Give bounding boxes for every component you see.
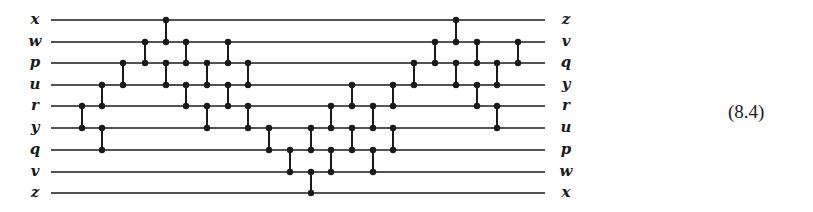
comparator	[453, 60, 459, 88]
comparator	[204, 60, 210, 88]
comparator-node	[79, 125, 85, 131]
output-label-u: u	[559, 120, 573, 135]
comparator-node	[163, 39, 169, 45]
comparator	[266, 125, 272, 153]
comparator	[163, 60, 169, 88]
comparator	[79, 103, 85, 131]
output-label-p: p	[559, 142, 573, 157]
comparator-node	[99, 103, 105, 109]
comparator	[328, 103, 334, 131]
comparator-node	[225, 82, 231, 88]
comparator-node	[163, 17, 169, 23]
comparator-node	[494, 103, 500, 109]
comparator-node	[390, 125, 396, 131]
comparator-node	[390, 82, 396, 88]
input-label-p: p	[28, 55, 42, 70]
comparator	[183, 82, 189, 109]
output-label-x: x	[559, 185, 573, 200]
comparator-node	[494, 60, 500, 66]
comparator-node	[99, 82, 105, 88]
comparator-node	[79, 103, 85, 109]
input-label-v: v	[28, 164, 42, 179]
comparator-node	[494, 125, 500, 131]
comparator-node	[225, 39, 231, 45]
comparator-node	[474, 103, 480, 109]
output-label-r: r	[559, 98, 573, 113]
comparator-node	[183, 103, 189, 109]
comparator	[494, 60, 500, 88]
comparator-node	[328, 169, 334, 175]
comparator-node	[349, 125, 355, 131]
input-label-w: w	[28, 34, 42, 49]
comparator	[225, 82, 231, 109]
input-label-x: x	[28, 12, 42, 27]
comparator-node	[245, 82, 251, 88]
comparator-node	[308, 125, 314, 131]
comparator-node	[204, 125, 210, 131]
comparator-node	[411, 60, 417, 66]
comparator	[308, 125, 314, 153]
input-label-z: z	[28, 185, 42, 200]
comparator-node	[515, 60, 521, 66]
output-label-y: y	[559, 77, 573, 92]
output-label-q: q	[559, 55, 573, 70]
comparator-node	[308, 190, 314, 196]
input-label-u: u	[28, 77, 42, 92]
comparator-node	[225, 60, 231, 66]
comparator-node	[474, 60, 480, 66]
comparator-node	[494, 82, 500, 88]
comparator	[494, 103, 500, 131]
comparator	[390, 125, 396, 153]
comparator-node	[120, 60, 126, 66]
comparator-node	[474, 39, 480, 45]
comparator-node	[183, 82, 189, 88]
sorting-network-diagram: xwpuryqvz zvqyrupwx (8.4)	[0, 0, 813, 212]
comparator-node	[204, 60, 210, 66]
equation-number: (8.4)	[728, 101, 764, 123]
comparator-node	[142, 39, 148, 45]
comparator-node	[308, 169, 314, 175]
comparator-node	[370, 147, 376, 153]
comparator	[142, 39, 148, 66]
comparator-node	[432, 60, 438, 66]
comparator-node	[245, 60, 251, 66]
output-label-z: z	[559, 12, 573, 27]
input-label-y: y	[28, 120, 42, 135]
comparator-node	[349, 82, 355, 88]
comparator	[99, 82, 105, 109]
comparator	[474, 82, 480, 109]
comparator-node	[515, 39, 521, 45]
comparator	[163, 17, 169, 45]
comparator-node	[328, 103, 334, 109]
comparator-node	[245, 103, 251, 109]
comparator	[515, 39, 521, 66]
comparator-node	[349, 147, 355, 153]
comparator-node	[99, 125, 105, 131]
comparator	[474, 39, 480, 66]
comparator	[411, 60, 417, 88]
comparator-node	[411, 82, 417, 88]
comparator-node	[266, 125, 272, 131]
comparator-node	[225, 103, 231, 109]
comparator-node	[120, 82, 126, 88]
comparator	[225, 39, 231, 66]
comparator-node	[245, 125, 251, 131]
comparator-node	[287, 169, 293, 175]
comparator-node	[390, 147, 396, 153]
comparator-node	[99, 147, 105, 153]
comparator-node	[453, 82, 459, 88]
comparator	[370, 103, 376, 131]
comparator	[245, 60, 251, 88]
comparator	[328, 147, 334, 175]
input-label-r: r	[28, 98, 42, 113]
comparator-node	[370, 125, 376, 131]
comparator-node	[328, 125, 334, 131]
comparator	[370, 147, 376, 175]
comparator-node	[183, 60, 189, 66]
output-label-w: w	[559, 164, 573, 179]
comparator	[120, 60, 126, 88]
network-canvas	[0, 0, 813, 212]
comparator	[453, 17, 459, 45]
input-label-q: q	[28, 142, 42, 157]
comparator	[390, 82, 396, 109]
